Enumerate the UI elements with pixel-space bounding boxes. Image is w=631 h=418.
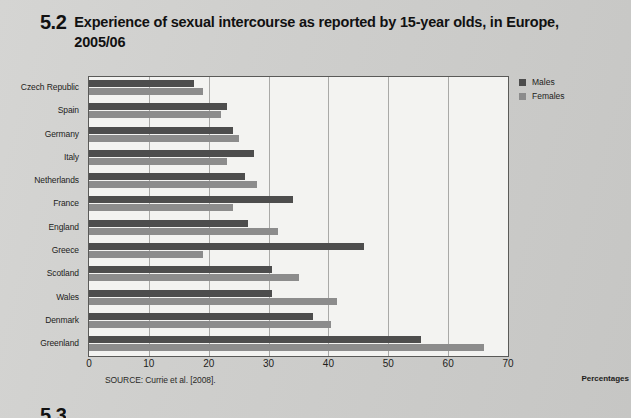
y-axis-label-wales: Wales	[0, 286, 84, 309]
bar-group-england	[89, 217, 508, 240]
bar-group-france	[89, 193, 508, 216]
legend-label-females: Females	[532, 91, 565, 101]
x-axis-unit-label: Percentages	[581, 374, 629, 383]
bar-group-czech-republic	[89, 77, 508, 100]
bar-males-italy	[89, 150, 254, 157]
x-tick-40: 40	[323, 358, 334, 369]
bar-group-germany	[89, 124, 508, 147]
legend-swatch-males	[519, 79, 526, 86]
bar-group-greenland	[89, 333, 508, 356]
bar-females-germany	[89, 135, 239, 142]
bar-rows	[89, 77, 508, 356]
y-axis-labels: Czech RepublicSpainGermanyItalyNetherlan…	[0, 76, 84, 357]
bar-males-england	[89, 220, 248, 227]
x-tick-10: 10	[143, 358, 154, 369]
bar-females-italy	[89, 158, 227, 165]
bar-females-czech-republic	[89, 88, 203, 95]
bar-males-greece	[89, 243, 364, 250]
x-tick-30: 30	[263, 358, 274, 369]
bar-males-france	[89, 196, 293, 203]
next-figure-number: 5.3	[40, 404, 66, 418]
bar-females-england	[89, 228, 278, 235]
y-axis-label-netherlands: Netherlands	[0, 169, 84, 192]
figure-title: Experience of sexual intercourse as repo…	[74, 12, 599, 52]
x-tick-50: 50	[383, 358, 394, 369]
y-axis-label-denmark: Denmark	[0, 309, 84, 332]
bar-females-scotland	[89, 274, 299, 281]
legend-swatch-females	[519, 93, 526, 100]
source-note: SOURCE: Currie et al. [2008].	[105, 375, 215, 385]
bar-females-spain	[89, 111, 221, 118]
x-axis-ticks: 010203040506070	[88, 358, 509, 374]
x-tick-60: 60	[443, 358, 454, 369]
bar-group-italy	[89, 147, 508, 170]
bar-males-netherlands	[89, 173, 245, 180]
chart-legend: MalesFemales	[519, 77, 565, 105]
x-tick-70: 70	[502, 358, 513, 369]
y-axis-label-germany: Germany	[0, 123, 84, 146]
bar-group-greece	[89, 240, 508, 263]
bar-males-greenland	[89, 336, 421, 343]
bar-group-wales	[89, 287, 508, 310]
figure-heading: 5.2 Experience of sexual intercourse as …	[40, 12, 600, 52]
bar-group-spain	[89, 100, 508, 123]
bar-males-spain	[89, 103, 227, 110]
bar-females-denmark	[89, 321, 331, 328]
bar-females-netherlands	[89, 181, 257, 188]
y-axis-label-greenland: Greenland	[0, 332, 84, 355]
bar-males-czech-republic	[89, 80, 194, 87]
x-tick-20: 20	[203, 358, 214, 369]
y-axis-label-italy: Italy	[0, 146, 84, 169]
y-axis-label-czech-republic: Czech Republic	[0, 76, 84, 99]
y-axis-label-france: France	[0, 192, 84, 215]
bar-group-netherlands	[89, 170, 508, 193]
bar-females-greenland	[89, 344, 484, 351]
bar-males-wales	[89, 290, 272, 297]
y-axis-label-spain: Spain	[0, 99, 84, 122]
bar-females-greece	[89, 251, 203, 258]
legend-item-females: Females	[519, 91, 565, 101]
legend-item-males: Males	[519, 77, 565, 87]
bar-males-denmark	[89, 313, 313, 320]
page-background: 5.2 Experience of sexual intercourse as …	[0, 0, 631, 418]
x-tick-0: 0	[86, 358, 92, 369]
bar-males-germany	[89, 127, 233, 134]
figure-number: 5.2	[40, 12, 66, 32]
y-axis-label-greece: Greece	[0, 239, 84, 262]
legend-label-males: Males	[532, 77, 555, 87]
bar-females-france	[89, 204, 233, 211]
bar-males-scotland	[89, 266, 272, 273]
bar-females-wales	[89, 298, 337, 305]
y-axis-label-scotland: Scotland	[0, 262, 84, 285]
y-axis-label-england: England	[0, 216, 84, 239]
bar-group-denmark	[89, 310, 508, 333]
chart-plot-area	[88, 76, 509, 357]
bar-group-scotland	[89, 263, 508, 286]
